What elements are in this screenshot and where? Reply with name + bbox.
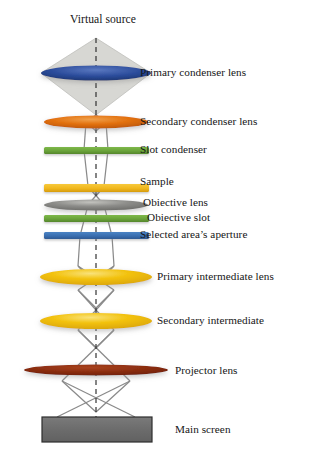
- sample-shape[interactable]: [44, 184, 149, 192]
- primary-condenser-lens-label: Primary condenser lens: [140, 66, 246, 78]
- main-screen-shape[interactable]: [42, 417, 152, 442]
- secondary-condenser-lens-shape[interactable]: [44, 116, 148, 129]
- objective-lens-label: Obiective lens: [143, 196, 208, 208]
- primary-intermediate-lens-label: Primary intermediate lens: [157, 270, 274, 282]
- slot-condenser-label: Slot condenser: [140, 143, 207, 155]
- objective-lens-shape[interactable]: [44, 200, 148, 211]
- primary-condenser-lens-shape[interactable]: [41, 66, 151, 81]
- sample-label: Sample: [140, 175, 174, 187]
- projector-lens-label: Projector lens: [175, 364, 238, 376]
- main-screen-label: Main screen: [175, 423, 231, 435]
- objective-slot-label: Obiective slot: [147, 211, 210, 223]
- selected-area-aperture-label: Selected area’s aperture: [140, 228, 247, 240]
- secondary-intermediate-lens-shape[interactable]: [40, 313, 152, 329]
- secondary-condenser-lens-label: Secondary condenser lens: [140, 115, 257, 127]
- virtual-source-label: Virtual source: [70, 14, 136, 26]
- objective-slot-shape[interactable]: [44, 215, 149, 222]
- slot-condenser-shape[interactable]: [44, 147, 149, 154]
- secondary-intermediate-label: Secondary intermediate: [157, 314, 264, 326]
- primary-intermediate-lens-shape[interactable]: [40, 269, 152, 285]
- selected-area-aperture-shape[interactable]: [44, 232, 149, 239]
- ray-diagram: Virtual source Primary condenser lens Se…: [0, 0, 325, 462]
- projector-lens-shape[interactable]: [24, 365, 168, 376]
